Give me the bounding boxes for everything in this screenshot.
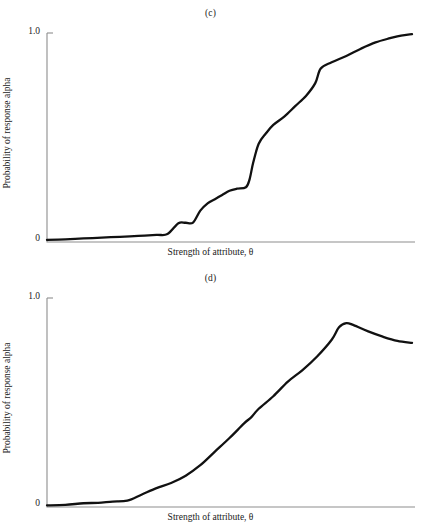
panel-d-svg <box>0 265 421 530</box>
panel-d-data-curve <box>47 323 412 505</box>
page-footer-artifact: — —— ——— —— ———— —— ——— —— ———— —— ——— —… <box>0 518 421 531</box>
panel-d: (d) Probability of response alpha 1.0 0 … <box>0 265 421 530</box>
footer-text-smudge: — —— ——— —— ———— —— ——— —— ———— —— ——— —… <box>0 518 421 523</box>
panel-c-x-axis-label: Strength of attribute, θ <box>0 247 421 257</box>
panel-d-plot <box>0 265 421 530</box>
panel-d-axes <box>47 298 415 507</box>
panel-c-plot <box>0 0 421 265</box>
panel-c: (c) Probability of response alpha 1.0 0 … <box>0 0 421 265</box>
panel-c-data-curve <box>47 34 412 240</box>
panel-c-axes <box>47 33 415 242</box>
panel-c-svg <box>0 0 421 265</box>
